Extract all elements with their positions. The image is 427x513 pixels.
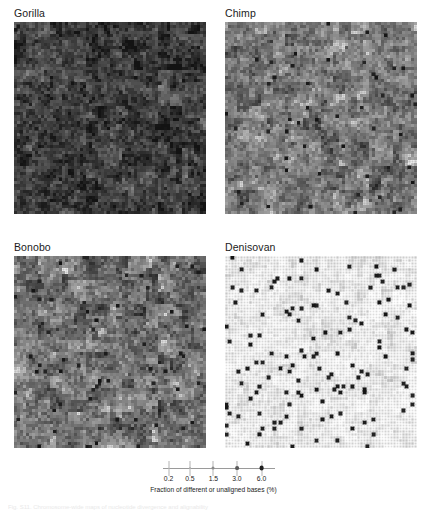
panel-grid: GorillaChimpBonoboDenisovan [0, 0, 427, 448]
legend-dot [189, 467, 191, 469]
hilbert-plot-bonobo [14, 256, 206, 448]
panel-gorilla: Gorilla [14, 7, 206, 214]
panel-title-denisovan: Denisovan [225, 241, 276, 253]
legend-label: 1.5 [209, 475, 218, 482]
panel-denisovan: Denisovan [225, 241, 417, 448]
legend-tick-list: 0.20.51.53.06.0 [163, 455, 275, 489]
figure-caption: Fig. S11. Chromosome-wide maps of nucleo… [8, 503, 419, 511]
legend-tick-mark [168, 461, 169, 476]
figure-root: GorillaChimpBonoboDenisovan 0.20.51.53.0… [0, 0, 427, 513]
legend-label: 0.2 [164, 475, 173, 482]
panel-title-gorilla: Gorilla [14, 7, 45, 19]
panel-title-chimp: Chimp [225, 7, 256, 19]
legend-dot [259, 466, 264, 471]
legend-label: 0.5 [185, 475, 194, 482]
hilbert-plot-chimp [225, 22, 417, 214]
hilbert-plot-gorilla [14, 22, 206, 214]
panel-title-bonobo: Bonobo [14, 241, 51, 253]
legend-label: 3.0 [232, 475, 241, 482]
legend-label: 6.0 [257, 475, 266, 482]
hilbert-plot-denisovan [225, 256, 417, 448]
panel-bonobo: Bonobo [14, 241, 206, 448]
legend-dot [235, 466, 239, 470]
panel-chimp: Chimp [225, 7, 417, 214]
legend-dot [212, 467, 215, 470]
legend-caption: Fraction of different or unaligned bases… [0, 486, 427, 493]
